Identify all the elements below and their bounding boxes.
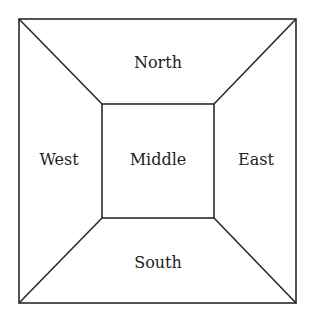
region-west-label: West xyxy=(39,150,79,169)
region-middle-label: Middle xyxy=(130,150,187,169)
compass-diagram: North South West East Middle xyxy=(0,0,312,323)
diagonal-top-left xyxy=(19,19,102,104)
diagonal-top-right xyxy=(214,19,296,104)
region-south-label: South xyxy=(134,253,182,272)
diagonal-bottom-left xyxy=(19,218,102,303)
region-north-label: North xyxy=(134,53,182,72)
region-east-label: East xyxy=(238,150,274,169)
diagonal-bottom-right xyxy=(214,218,296,303)
